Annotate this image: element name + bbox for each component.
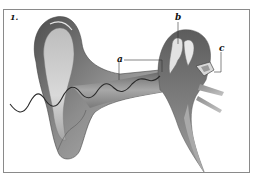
label-b: b — [175, 13, 181, 22]
figure-number: 1. — [10, 13, 18, 21]
ear-diagram — [0, 0, 255, 178]
middle-ear — [158, 30, 224, 172]
label-c: c — [219, 44, 224, 53]
label-a: a — [117, 55, 123, 64]
